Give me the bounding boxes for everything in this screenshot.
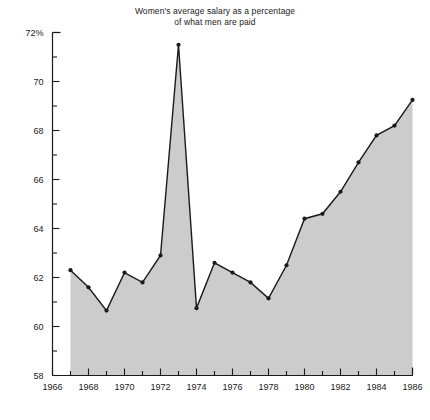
y-axis-tick-label: 72%: [25, 28, 43, 38]
data-point-marker: [338, 190, 342, 194]
x-axis-tick-label: 1976: [222, 382, 242, 392]
data-point-marker: [194, 306, 198, 310]
data-point-marker: [122, 271, 126, 275]
x-axis-tick-label: 1966: [42, 382, 62, 392]
y-axis-tick-label: 68: [33, 126, 43, 136]
y-axis-tick-label: 60: [33, 322, 43, 332]
data-point-marker: [248, 280, 252, 284]
data-point-marker: [356, 160, 360, 164]
x-axis-tick-label: 1974: [186, 382, 206, 392]
data-point-marker: [212, 261, 216, 265]
data-point-marker: [104, 308, 108, 312]
x-axis-tick-label: 1986: [402, 382, 422, 392]
data-point-marker: [266, 296, 270, 300]
x-axis-tick-label: 1980: [294, 382, 314, 392]
chart-figure: Women's average salary as a percentage o…: [0, 0, 430, 420]
y-axis-tick-label: 64: [33, 224, 43, 234]
data-point-marker: [140, 280, 144, 284]
data-point-marker: [86, 285, 90, 289]
area-fill: [71, 45, 413, 376]
data-point-marker: [284, 263, 288, 267]
data-point-marker: [176, 43, 180, 47]
x-axis-tick-label: 1972: [150, 382, 170, 392]
data-point-marker: [392, 124, 396, 128]
x-axis-tick-label: 1984: [366, 382, 386, 392]
data-point-marker: [230, 271, 234, 275]
x-axis-tick-label: 1968: [78, 382, 98, 392]
y-axis-tick-label: 70: [33, 77, 43, 87]
y-axis-tick-label: 66: [33, 175, 43, 185]
x-axis-tick-label: 1982: [330, 382, 350, 392]
x-axis-tick-label: 1978: [258, 382, 278, 392]
y-axis-tick-label: 58: [33, 371, 43, 381]
y-axis-tick-label: 62: [33, 273, 43, 283]
data-point-marker: [374, 133, 378, 137]
data-point-marker: [158, 253, 162, 257]
data-point-marker: [320, 212, 324, 216]
data-point-marker: [410, 98, 414, 102]
data-point-marker: [302, 217, 306, 221]
line-area-chart-plot: 5860626466687072%19661968197019721974197…: [0, 0, 430, 420]
x-axis-tick-label: 1970: [114, 382, 134, 392]
data-point-marker: [68, 268, 72, 272]
